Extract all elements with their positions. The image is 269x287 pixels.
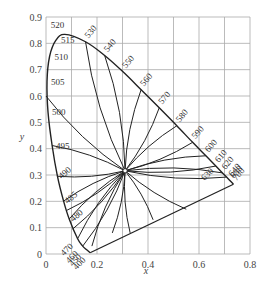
chromaticity-diagram: 00.20.40.60.800.10.20.30.40.50.60.70.80.… [0,0,269,287]
y-tick-label: 0.2 [30,196,43,207]
x-tick-label: 0.8 [244,259,257,270]
y-tick-label: 0.6 [30,91,43,102]
wavelength-label: 580 [174,107,191,124]
white-point [123,169,127,173]
y-tick-label: 0.9 [30,12,43,23]
x-tick-label: 0.6 [193,259,206,270]
y-tick-label: 0.1 [30,222,43,233]
x-axis-label: x [143,265,149,276]
wavelength-label: 540 [102,37,119,54]
y-tick-label: 0.5 [30,117,43,128]
x-tick-label: 0.2 [91,259,104,270]
wavelength-label: 520 [51,20,65,30]
hue-line [125,90,141,171]
wavelength-label: 515 [61,35,75,45]
wavelength-label: 505 [51,77,65,87]
y-tick-label: 0.7 [30,64,43,75]
x-tick-label: 0 [44,259,49,270]
y-tick-label: 0.4 [30,143,43,154]
wavelength-label: 500 [52,107,66,117]
y-tick-label: 0.3 [30,170,43,181]
wavelength-label: 630 [199,166,216,183]
hue-line [124,171,130,233]
wavelength-label: 560 [138,71,155,88]
wavelength-label: 590 [189,123,206,140]
y-tick-label: 0 [37,249,42,260]
wavelength-label: 495 [56,141,70,151]
wavelength-label: 530 [82,23,99,40]
hue-line [105,55,125,170]
wavelength-label: 570 [156,89,173,106]
wavelength-label: 510 [55,52,69,62]
wavelength-label: 490 [56,164,73,181]
y-tick-label: 0.8 [30,38,43,49]
hue-line [125,171,153,220]
hue-line [86,42,126,171]
wavelength-label: 485 [62,189,79,206]
y-axis-label: y [19,131,25,142]
